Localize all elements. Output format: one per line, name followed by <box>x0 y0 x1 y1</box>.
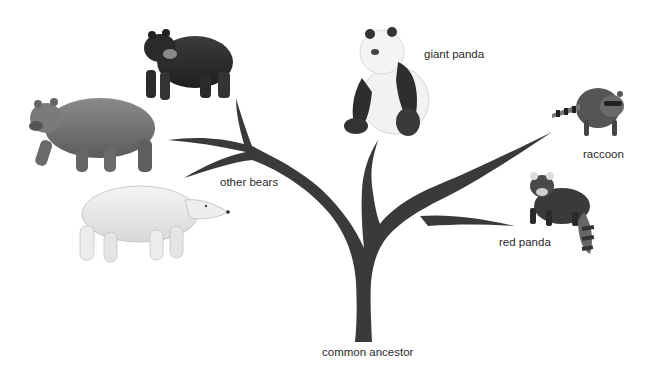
polar-bear-illustration <box>80 186 230 262</box>
label-common-ancestor: common ancestor <box>322 346 413 358</box>
label-raccoon: raccoon <box>583 148 624 160</box>
black-bear-illustration <box>144 29 233 100</box>
tree <box>168 98 552 342</box>
giant-panda-illustration <box>344 27 429 136</box>
branch-red-panda <box>420 215 515 226</box>
brown-bear-illustration <box>29 98 155 172</box>
raccoon-illustration <box>552 88 624 136</box>
tree-canvas <box>0 0 654 369</box>
trunk <box>168 98 552 342</box>
label-red-panda: red panda <box>499 236 551 248</box>
phylogeny-diagram: other bears giant panda raccoon red pand… <box>0 0 654 369</box>
label-giant-panda: giant panda <box>424 48 484 60</box>
label-other-bears: other bears <box>220 176 278 188</box>
